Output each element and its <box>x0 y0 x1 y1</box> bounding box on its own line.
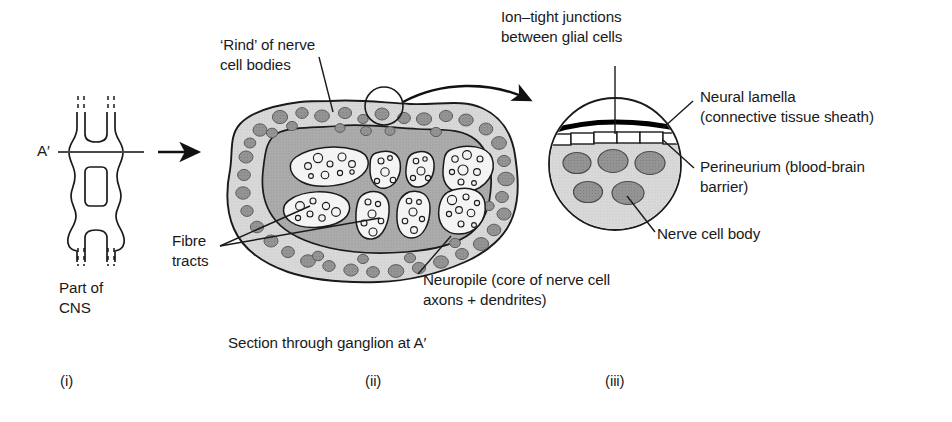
cns-inner-gap-top <box>85 112 107 142</box>
rind-cell <box>388 265 404 278</box>
panel-ii-ganglion-section <box>227 86 530 282</box>
rind-cell <box>459 114 473 126</box>
rind-cell <box>497 208 511 220</box>
rind-cell <box>266 128 277 138</box>
nerve-stub-top-right <box>108 96 114 112</box>
rind-cell <box>375 108 389 120</box>
rind-cell <box>496 191 509 202</box>
nerve-stub-bottom-left <box>78 248 84 266</box>
perineurium-cell <box>617 132 640 143</box>
perineurium-label-line1: Perineurium (blood-brain <box>700 158 865 177</box>
nerve-cell-body <box>635 152 665 175</box>
rind-cell <box>434 256 449 268</box>
diagram-canvas <box>0 0 952 422</box>
fibre-tracts-label-line2: tracts <box>172 252 209 271</box>
rind-cell <box>439 110 452 121</box>
perineurium-cell <box>640 132 663 143</box>
rind-cell <box>244 138 256 148</box>
rind-cell <box>450 238 461 247</box>
rind-cell <box>492 137 507 150</box>
perineurium-cell <box>594 132 617 143</box>
rind-cell <box>358 254 369 263</box>
magnification-arrow <box>403 86 530 102</box>
rind-cell <box>487 224 501 236</box>
panel-number-iii: (iii) <box>605 372 625 390</box>
rind-cell <box>282 246 295 257</box>
rind-label-line1: ‘Rind’ of nerve <box>220 36 315 55</box>
rind-cell <box>287 121 298 130</box>
fibre-tract-group-top <box>290 146 493 192</box>
rind-cell <box>456 248 469 259</box>
rind-cell <box>344 264 358 276</box>
cns-caption-line1: Part of <box>59 279 103 298</box>
nerve-stub-bottom-right <box>108 248 114 266</box>
rind-cell <box>335 124 345 133</box>
ion-tight-junctions-label-line2: between glial cells <box>501 28 622 47</box>
rind-cell <box>272 110 287 123</box>
rind-cell <box>236 187 250 199</box>
fibre-tract <box>284 192 350 228</box>
nerve-cell-body <box>574 182 603 203</box>
rind-cell <box>498 155 511 166</box>
rind-cell <box>253 124 267 136</box>
cns-outline-right <box>115 112 124 262</box>
perineurium-cell-row <box>548 132 686 145</box>
ion-tight-junctions-label-line1: Ion–tight junctions <box>501 8 622 27</box>
neuropile-label-line2: axons + dendrites) <box>423 291 547 310</box>
neuropile-label-line1: Neuropile (core of nerve cell <box>423 271 610 290</box>
rind-cell <box>315 110 330 122</box>
rind-cell <box>385 127 395 136</box>
figure-root: A′ Part of CNS ‘Rind’ of nerve cell bodi… <box>0 0 952 422</box>
panel-number-i: (i) <box>60 372 73 390</box>
rind-cell <box>367 267 380 278</box>
rind-cell <box>473 238 488 251</box>
rind-cell <box>238 169 251 180</box>
fibre-tracts-label-line1: Fibre <box>172 232 206 251</box>
rind-cell <box>312 251 323 261</box>
rind-label-line2: cell bodies <box>220 56 291 75</box>
rind-cell <box>361 126 372 135</box>
rind-cell <box>358 114 368 123</box>
perineurium-label-line2: barrier) <box>700 178 748 197</box>
rind-cell <box>338 107 351 118</box>
rind-cell <box>296 108 308 119</box>
rind-cell <box>404 253 415 263</box>
rind-cell <box>416 113 431 125</box>
rind-cell <box>323 261 335 272</box>
perineurium-cell <box>571 133 594 144</box>
rind-cell <box>498 172 514 186</box>
section-plane-label: A′ <box>37 142 50 161</box>
cns-caption-line2: CNS <box>59 299 91 318</box>
cns-inner-gap-bottom <box>85 230 107 262</box>
panel-iii-sheath-detail <box>546 66 694 233</box>
cns-outline-left <box>68 112 77 262</box>
neural-lamella-label-line1: Neural lamella <box>700 88 796 107</box>
rind-cell <box>241 206 253 217</box>
rind-cell <box>479 123 493 135</box>
nerve-stub-top-left <box>78 96 84 112</box>
nerve-cell-body <box>598 150 628 173</box>
rind-cell <box>239 151 253 163</box>
cns-connective-gap <box>85 167 107 206</box>
leader-neural-lamella <box>663 101 693 128</box>
panel-ii-caption: Section through ganglion at A′ <box>228 334 426 353</box>
neural-lamella-label-line2: (connective tissue sheath) <box>700 108 874 127</box>
nerve-cell-body <box>563 153 591 174</box>
nerve-cell-body <box>612 182 644 205</box>
nerve-cell-body-label: Nerve cell body <box>657 225 760 244</box>
panel-number-ii: (ii) <box>365 372 381 390</box>
rind-cell <box>431 127 442 136</box>
